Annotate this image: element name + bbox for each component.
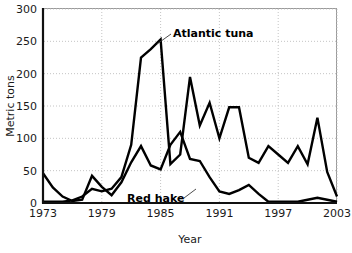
y-tick-label: 50 bbox=[23, 165, 37, 178]
x-axis-title: Year bbox=[177, 233, 202, 246]
x-tick-label: 2003 bbox=[323, 207, 351, 220]
x-tick-label: 1997 bbox=[264, 207, 292, 220]
y-tick-label: 200 bbox=[16, 68, 37, 81]
x-tick-label: 1979 bbox=[88, 207, 116, 220]
x-tick-label: 1985 bbox=[147, 207, 175, 220]
chart-figure: 050100150200250300 197319791985199119972… bbox=[0, 0, 352, 253]
y-tick-label: 250 bbox=[16, 35, 37, 48]
y-axis-title: Metric tons bbox=[4, 75, 17, 137]
series-label-red-hake: Red hake bbox=[127, 192, 184, 205]
y-tick-label: 300 bbox=[16, 3, 37, 16]
line-chart-canvas: 050100150200250300 197319791985199119972… bbox=[0, 0, 352, 253]
y-tick-label: 150 bbox=[16, 100, 37, 113]
x-tick-label: 1991 bbox=[205, 207, 233, 220]
x-tick-label: 1973 bbox=[29, 207, 57, 220]
y-tick-label: 100 bbox=[16, 132, 37, 145]
series-label-atlantic-tuna: Atlantic tuna bbox=[173, 27, 254, 40]
